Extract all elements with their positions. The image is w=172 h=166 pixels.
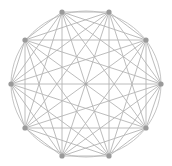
center-intersection-point xyxy=(84,82,87,85)
graph-edge xyxy=(11,40,25,84)
complete-graph-diagram xyxy=(0,0,172,166)
graph-edge xyxy=(62,12,146,128)
graph-edge xyxy=(11,84,25,128)
graph-node xyxy=(59,153,64,158)
graph-edge xyxy=(11,12,109,84)
graph-node xyxy=(22,37,27,42)
graph-node xyxy=(106,9,111,14)
graph-node xyxy=(143,37,148,42)
graph-edge xyxy=(11,84,146,128)
graph-edge xyxy=(109,12,146,40)
graph-edge xyxy=(25,40,109,156)
graph-edge xyxy=(109,128,146,156)
graph-node xyxy=(143,125,148,130)
graph-edge xyxy=(25,128,62,156)
graph-edge xyxy=(11,84,62,156)
graph-node xyxy=(8,81,13,86)
graph-node xyxy=(59,9,64,14)
graph-edge xyxy=(146,84,161,128)
graph-edge xyxy=(25,128,109,156)
graph-node xyxy=(158,81,163,86)
graph-edge xyxy=(25,12,62,40)
graph-edge xyxy=(109,12,146,128)
graph-edge xyxy=(146,40,161,84)
graph-node xyxy=(22,125,27,130)
graph-node xyxy=(106,153,111,158)
